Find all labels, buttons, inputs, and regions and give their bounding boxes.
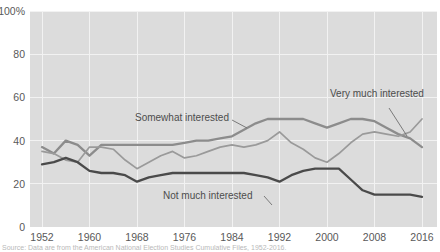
x-axis-tick-labels: 195219601968197619841992200020082016 (30, 231, 434, 243)
y-tick-label-80: 80 (13, 48, 25, 60)
y-tick-label-60: 60 (13, 91, 25, 103)
x-tick-label-1984: 1984 (220, 231, 244, 243)
x-tick-label-1992: 1992 (268, 231, 292, 243)
series-label-not-much-interested: Not much interested (163, 190, 253, 201)
source-note: Source: Data are from the American Natio… (2, 244, 286, 251)
y-tick-label-0: 0 (19, 221, 25, 233)
line-chart: 020406080100% 19521960196819761984199220… (0, 0, 440, 252)
x-tick-label-2000: 2000 (315, 231, 339, 243)
x-tick-label-2016: 2016 (410, 231, 434, 243)
chart-container: 020406080100% 19521960196819761984199220… (0, 0, 440, 252)
x-tick-label-1968: 1968 (125, 231, 149, 243)
x-tick-label-1976: 1976 (173, 231, 197, 243)
x-tick-label-2008: 2008 (363, 231, 387, 243)
series-label-somewhat-interested: Somewhat interested (135, 112, 229, 123)
x-tick-label-1960: 1960 (78, 231, 102, 243)
series-label-very-much-interested: Very much interested (330, 88, 424, 99)
x-tick-label-1952: 1952 (30, 231, 54, 243)
y-axis-tick-labels: 020406080100% (0, 5, 25, 233)
y-tick-label-20: 20 (13, 178, 25, 190)
y-tick-label-100: 100% (0, 5, 25, 17)
y-tick-label-40: 40 (13, 135, 25, 147)
